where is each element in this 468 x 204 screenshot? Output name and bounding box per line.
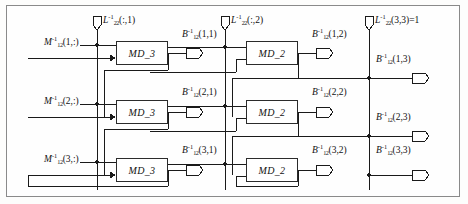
flag-out-2-1 xyxy=(186,107,203,117)
bus-input-label-1: L-122(:,1) xyxy=(103,16,135,26)
flag-out-1-3 xyxy=(412,73,429,83)
junction-b3-r3 xyxy=(367,173,370,176)
o13-arg: (1,3) xyxy=(393,54,411,64)
bus-2-arg: (:,2) xyxy=(247,15,263,25)
flag-out-3-1 xyxy=(186,165,203,175)
block-md3-row3[interactable]: MD_3 xyxy=(116,158,168,182)
m2-arg: (2,:) xyxy=(63,96,79,106)
o33-arg: (3,3) xyxy=(393,145,411,155)
block-md2-row2[interactable]: MD_2 xyxy=(246,100,298,124)
bus-1-arg: (:,1) xyxy=(119,15,135,25)
output-label-2-3: B-112(2,3) xyxy=(376,113,411,123)
junction-b1-r1 xyxy=(95,43,98,46)
junction-b2-r1 xyxy=(223,45,226,48)
input-port-3 xyxy=(365,16,373,30)
bus-3-suffix: =1 xyxy=(409,15,419,25)
flag-out-3-3 xyxy=(412,170,429,180)
row-input-label-2: M-112(2,:) xyxy=(44,97,79,107)
row-input-label-3: M-112(3,:) xyxy=(44,155,79,165)
o12-arg: (1,2) xyxy=(329,29,347,39)
m1-base: M xyxy=(44,37,52,47)
output-label-1-1: B-112(1,1) xyxy=(182,30,217,40)
output-label-1-2: B-112(1,2) xyxy=(312,30,347,40)
flag-out-2-3 xyxy=(412,131,429,141)
o11-arg: (1,1) xyxy=(199,29,217,39)
input-port-2 xyxy=(221,16,229,30)
bus-input-label-2: L-122(:,2) xyxy=(231,16,263,26)
output-label-2-1: B-112(2,1) xyxy=(182,88,217,98)
m1-arg: (1,:) xyxy=(63,37,79,47)
flag-out-3-2 xyxy=(316,165,333,175)
bus-input-label-3: L-122(3,3)=1 xyxy=(375,16,419,26)
m2-base: M xyxy=(44,96,52,106)
o22-arg: (2,2) xyxy=(329,87,347,97)
output-label-2-2: B-112(2,2) xyxy=(312,88,347,98)
junction-b2-r2 xyxy=(223,104,226,107)
diagram-canvas: MD_3 MD_3 MD_3 MD_2 MD_2 MD_2 L-122(:,1)… xyxy=(0,0,468,204)
junction-b2-r3 xyxy=(223,162,226,165)
output-label-1-3: B-112(1,3) xyxy=(376,55,411,65)
o31-arg: (3,1) xyxy=(199,145,217,155)
output-label-3-3: B-112(3,3) xyxy=(376,146,411,156)
flag-out-1-2 xyxy=(316,48,333,58)
junction-b1-r2 xyxy=(95,102,98,105)
m3-base: M xyxy=(44,154,52,164)
junction-b3-r2 xyxy=(367,134,370,137)
row-input-label-1: M-112(1,:) xyxy=(44,38,79,48)
flag-out-1-1 xyxy=(186,48,203,58)
block-md3-row2[interactable]: MD_3 xyxy=(116,100,168,124)
junction-b1-r3 xyxy=(95,160,98,163)
output-label-3-2: B-112(3,2) xyxy=(312,146,347,156)
block-md2-row3[interactable]: MD_2 xyxy=(246,158,298,182)
output-label-3-1: B-112(3,1) xyxy=(182,146,217,156)
o23-arg: (2,3) xyxy=(393,112,411,122)
bus-3-arg: (3,3) xyxy=(391,15,409,25)
input-port-1 xyxy=(93,16,101,30)
block-md3-row1[interactable]: MD_3 xyxy=(116,41,168,65)
junction-b3-r1 xyxy=(367,76,370,79)
o32-arg: (3,2) xyxy=(329,145,347,155)
flag-out-2-2 xyxy=(316,107,333,117)
block-md2-row1[interactable]: MD_2 xyxy=(246,41,298,65)
o21-arg: (2,1) xyxy=(199,87,217,97)
m3-arg: (3,:) xyxy=(63,154,79,164)
